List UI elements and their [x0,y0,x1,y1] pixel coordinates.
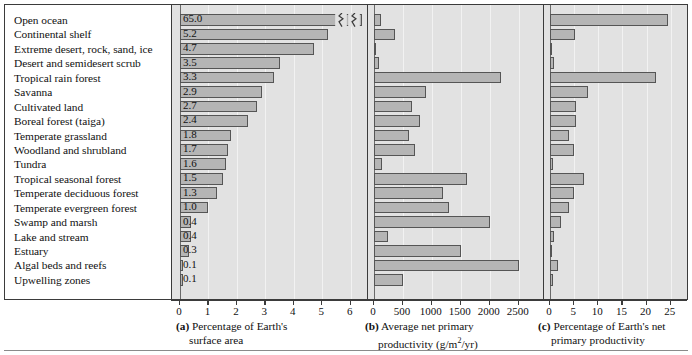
bar-value-label: 3.5 [183,56,197,68]
axis-tick-label: 0 [546,305,552,317]
category-label: Woodland and shrubland [5,143,171,157]
category-label: Cultivated land [5,100,171,114]
axis-tick-label: 4 [290,305,296,317]
axis-break-icon [335,13,347,27]
bar-row [368,186,543,200]
axis-tick-label: 5 [318,305,324,317]
bar [550,245,552,257]
bar-row [368,143,543,157]
bar-row [368,13,543,27]
caption-b: (b) Average net primaryproductivity (g/m… [365,320,478,351]
bar [550,86,588,98]
bar-row [544,172,687,186]
bar-row [544,114,687,128]
bar-row [368,230,543,244]
caption-line-1: Average net primary [381,320,474,332]
bar-value-label: 2.7 [183,99,197,111]
category-label: Savanna [5,85,171,99]
bar-row: 5.2 [172,27,367,41]
bar-value-label: 0.4 [183,229,197,241]
bar-row [544,215,687,229]
bar-value-label: 0.1 [183,272,197,284]
bar-row: 1.7 [172,143,367,157]
bar [374,187,443,199]
bar-row: 1.0 [172,201,367,215]
axis-tick-label: 2 [233,305,239,317]
axis-break-icon [348,13,360,27]
panel-b-bars [368,13,543,287]
bar-row [544,13,687,27]
bar-row: 65.0 [172,13,367,27]
panel-c-percent-net-primary-productivity [543,5,687,299]
category-label: Desert and semidesert scrub [5,56,171,70]
bar-row [368,244,543,258]
bar [374,202,449,214]
bar-value-label: 0.1 [183,258,197,270]
bar [374,115,420,127]
category-label: Algal beds and reefs [5,258,171,272]
bar [180,43,314,55]
bar [550,173,584,185]
category-label: Tropical seasonal forest [5,172,171,186]
axis-tick-label: 1000 [420,305,442,317]
panel-a-bars: 65.05.24.73.53.32.92.72.41.81.71.61.51.3… [172,13,367,287]
bar [374,43,376,55]
category-label: Tundra [5,157,171,171]
bar [374,86,426,98]
bar [374,231,388,243]
category-label: Lake and stream [5,230,171,244]
bar-value-label: 65.0 [183,12,202,24]
ecosystem-productivity-figure: Open oceanContinental shelfExtreme deser… [0,0,692,355]
caption-letter: (a) [176,320,189,332]
category-label: Temperate grassland [5,129,171,143]
bar [550,72,656,84]
category-label: Estuary [5,244,171,258]
bar-row: 3.5 [172,56,367,70]
bar [374,216,490,228]
panel-b-net-primary-productivity [367,5,543,299]
bar [550,231,554,243]
bar-row: 1.6 [172,157,367,171]
bar-value-label: 2.9 [183,85,197,97]
bar-value-label: 1.5 [183,171,197,183]
bar [374,72,501,84]
axis-tick-label: 2000 [478,305,500,317]
axis-tick-label: 10 [592,305,603,317]
bar-row: 1.5 [172,172,367,186]
bar-row [544,85,687,99]
bar-value-label: 0.3 [183,243,197,255]
bar [374,245,461,257]
bar [550,57,554,69]
bar-row [368,85,543,99]
axis-tick-label: 500 [394,305,411,317]
bar [374,260,519,272]
axis-line [543,300,687,301]
category-label: Extreme desert, rock, sand, ice [5,42,171,56]
bar [550,29,575,41]
bar [374,144,415,156]
bar-row [368,172,543,186]
bar-row [544,244,687,258]
axes-strip: 0123456050010001500200025000510152025 [4,300,688,312]
caption-line-1: Percentage of Earth's net [553,320,665,332]
bar-value-label: 1.6 [183,157,197,169]
bar-value-label: 1.7 [183,142,197,154]
axis-line [171,300,367,301]
category-label: Boreal forest (taiga) [5,114,171,128]
caption-letter: (c) [538,320,551,332]
bar-value-label: 4.7 [183,41,197,53]
bar-row [544,56,687,70]
bar-row [544,129,687,143]
category-label: Temperate evergreen forest [5,201,171,215]
bottom-rule [4,350,688,351]
axis-tick-label: 25 [664,305,675,317]
bar [550,130,569,142]
bar [550,158,553,170]
bar-row [544,143,687,157]
bar [550,216,561,228]
caption-letter: (b) [365,320,379,332]
caption-a: (a) Percentage of Earth'ssurface area [176,320,288,347]
caption-c: (c) Percentage of Earth's netprimary pro… [538,320,666,347]
bar-row [368,258,543,272]
bar-row: 2.9 [172,85,367,99]
